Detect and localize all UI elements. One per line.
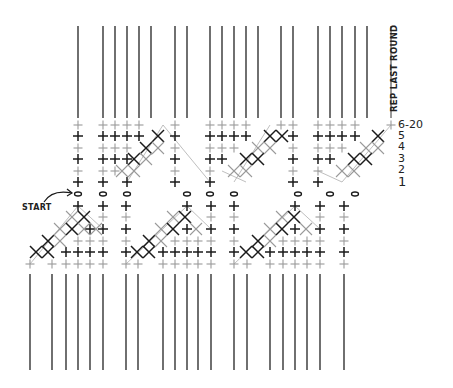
chain-stitch-icon (295, 192, 302, 196)
diagonal-line (318, 171, 342, 182)
chain-stitch-row (75, 192, 359, 196)
start-arrow-icon (44, 192, 72, 202)
row-label: 4 (398, 141, 405, 152)
diagonal-line (222, 171, 246, 182)
start-label: START (22, 203, 52, 212)
crochet-chart (0, 0, 453, 388)
chain-stitch-icon (352, 192, 359, 196)
diagonal-line (163, 125, 210, 182)
chain-stitch-icon (100, 192, 107, 196)
continuation-lines-top (78, 26, 391, 118)
chain-stitch-icon (184, 192, 191, 196)
chain-stitch-icon (75, 192, 82, 196)
continuation-lines-bottom (30, 274, 344, 370)
chain-stitch-icon (327, 192, 334, 196)
diagonal-line (126, 206, 187, 264)
row-label: 1 (398, 176, 406, 187)
chain-stitch-icon (207, 192, 214, 196)
chain-stitch-icon (231, 192, 238, 196)
diagonal-line (127, 125, 163, 182)
rep-last-round-label: REP LAST ROUND (389, 25, 399, 112)
start-arrow-icon (44, 189, 72, 202)
chain-stitch-icon (124, 192, 131, 196)
